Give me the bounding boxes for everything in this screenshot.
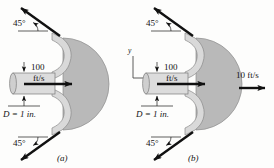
panel-a-caption: (a)	[57, 153, 68, 163]
panel-a-angle-bottom-label: 45°	[13, 138, 26, 148]
panel-b-diameter-label: D = 1 in.	[135, 109, 169, 119]
panel-a: 45° 45° 100 ft/s D = 1 in. (a)	[2, 8, 109, 163]
panel-a-lower-angle-arc	[33, 137, 38, 145]
panel-a-angle-top-label: 45°	[13, 18, 26, 28]
panel-b-lower-angle-arc	[166, 137, 171, 145]
panel-a-upper-outlet-arrow	[21, 8, 60, 36]
panel-a-inlet-speed-value: 100	[31, 62, 45, 72]
vane-jet-figure: 45° 45° 100 ft/s D = 1 in. (a) y x	[0, 0, 274, 168]
panel-b-angle-bottom-label: 45°	[146, 138, 159, 148]
panel-b-outlet-speed-label: 10 ft/s	[236, 70, 259, 80]
panel-b-angle-top-label: 45°	[146, 18, 159, 28]
panel-b-axis-y-label: y	[127, 46, 132, 55]
panel-b-caption: (b)	[188, 153, 199, 163]
panel-b: y x	[127, 8, 265, 163]
panel-a-inlet-speed-units: ft/s	[33, 73, 45, 83]
panel-a-lower-outlet-arrow	[21, 132, 60, 160]
panel-a-diameter-label: D = 1 in.	[2, 109, 36, 119]
panel-a-upper-angle-arc	[33, 23, 38, 31]
figure-container: 45° 45° 100 ft/s D = 1 in. (a) y x	[0, 0, 274, 168]
panel-b-inlet-speed-units: ft/s	[166, 73, 178, 83]
panel-b-upper-outlet-arrow	[154, 8, 193, 36]
panel-b-inlet-speed-value: 100	[164, 62, 178, 72]
panel-b-upper-angle-arc	[166, 23, 171, 31]
